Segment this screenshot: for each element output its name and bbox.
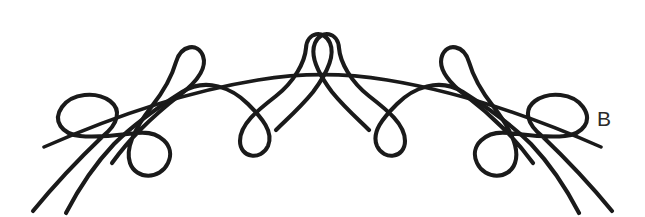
looping-curve-right-path xyxy=(441,47,612,211)
overlay-arc-path xyxy=(44,75,601,147)
figure-panel: B xyxy=(0,0,645,217)
figure-label: B xyxy=(597,108,612,129)
looping-curve-figure xyxy=(0,0,645,217)
looping-curve-main-path xyxy=(33,47,204,211)
